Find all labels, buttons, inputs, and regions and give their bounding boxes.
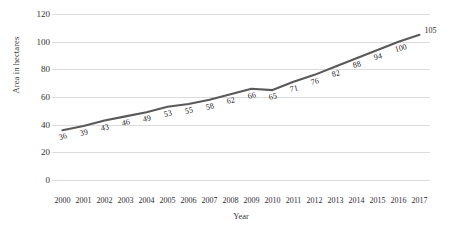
x-tick-label: 2008 — [223, 196, 239, 205]
x-tick-label: 2007 — [202, 196, 218, 205]
data-point-label: 58 — [204, 101, 214, 112]
y-tick-label: 60 — [18, 92, 50, 102]
data-point-label: 66 — [246, 90, 256, 101]
data-point-label: 71 — [288, 83, 298, 94]
y-tick-label: 0 — [18, 175, 50, 185]
y-tick-label: 80 — [18, 64, 50, 74]
data-point-label: 82 — [330, 68, 340, 79]
y-axis-tick-labels: 020406080100120 — [18, 14, 50, 180]
data-point-label: 76 — [309, 76, 319, 87]
x-tick-label: 2005 — [160, 196, 176, 205]
x-tick-label: 2004 — [139, 196, 155, 205]
x-tick-label: 2000 — [55, 196, 71, 205]
x-tick-label: 2017 — [412, 196, 428, 205]
x-axis-title: Year — [52, 211, 430, 221]
gridline — [52, 180, 430, 181]
x-tick-label: 2010 — [265, 196, 281, 205]
data-point-label: 43 — [99, 122, 109, 133]
line-chart: Area in hectares 020406080100120 3639434… — [0, 0, 454, 233]
x-tick-label: 2009 — [244, 196, 260, 205]
data-point-label: 105 — [425, 26, 437, 35]
x-tick-label: 2012 — [307, 196, 323, 205]
x-axis-tick-labels: 2000200120022003200420052006200720082009… — [52, 196, 430, 210]
series-line — [52, 14, 430, 180]
data-point-label: 94 — [372, 51, 382, 62]
y-tick-label: 20 — [18, 147, 50, 157]
x-tick-label: 2011 — [286, 196, 302, 205]
y-tick-label: 100 — [18, 37, 50, 47]
data-point-label: 53 — [162, 108, 172, 119]
y-tick-label: 120 — [18, 9, 50, 19]
data-point-label: 65 — [267, 91, 277, 102]
x-tick-label: 2013 — [328, 196, 344, 205]
x-tick-label: 2002 — [97, 196, 113, 205]
plot-area: 36394346495355586266657176828894100105 — [52, 14, 430, 180]
x-tick-label: 2003 — [118, 196, 134, 205]
data-point-label: 55 — [183, 105, 193, 116]
x-tick-label: 2001 — [76, 196, 92, 205]
data-point-label: 39 — [78, 127, 88, 138]
x-tick-label: 2014 — [349, 196, 365, 205]
x-tick-label: 2016 — [391, 196, 407, 205]
x-tick-label: 2006 — [181, 196, 197, 205]
y-tick-label: 40 — [18, 120, 50, 130]
x-tick-label: 2015 — [370, 196, 386, 205]
